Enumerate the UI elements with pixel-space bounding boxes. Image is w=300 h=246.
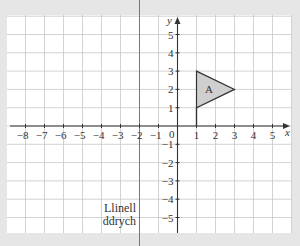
- y-tick-label: 5: [168, 29, 174, 41]
- y-axis-label: y: [166, 14, 172, 26]
- x-tick-label: 5: [270, 129, 276, 141]
- x-tick-label: −2: [131, 129, 143, 141]
- x-tick-label: 2: [213, 129, 219, 141]
- x-tick-label: −6: [55, 129, 67, 141]
- x-tick-label: −5: [74, 129, 86, 141]
- y-tick-label: 1: [168, 102, 174, 114]
- mirror-line-label-2: ddrych: [103, 214, 136, 228]
- y-tick-label: −5: [162, 212, 174, 224]
- y-tick-label: 3: [168, 65, 174, 77]
- mirror-line-label-1: Llinell: [104, 201, 137, 215]
- y-tick-label: 4: [168, 47, 174, 59]
- x-tick-label: −3: [112, 129, 124, 141]
- origin-label: 0: [169, 128, 175, 140]
- y-tick-label: −3: [162, 175, 174, 187]
- x-tick-label: 1: [194, 129, 200, 141]
- y-tick-label: −4: [162, 193, 174, 205]
- grid-background: [7, 15, 292, 233]
- x-tick-label: 4: [251, 129, 257, 141]
- y-tick-label: 2: [168, 83, 174, 95]
- y-tick-label: −2: [162, 157, 174, 169]
- shape-label: A: [205, 83, 213, 95]
- x-tick-label: 3: [232, 129, 238, 141]
- x-tick-label: −7: [36, 129, 48, 141]
- x-tick-label: −8: [17, 129, 29, 141]
- coordinate-diagram: −8−7−6−5−4−3−2−11234554321−1−2−3−4−5 Lli…: [0, 0, 300, 246]
- x-tick-label: −1: [150, 129, 162, 141]
- y-tick-label: −1: [162, 138, 174, 150]
- x-axis-label: x: [284, 126, 290, 138]
- x-tick-label: −4: [93, 129, 105, 141]
